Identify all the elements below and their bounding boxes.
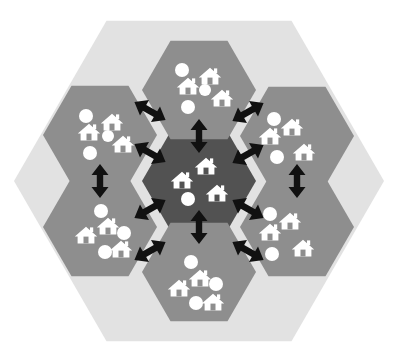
- hexagon-network-diagram: [0, 0, 399, 363]
- person-dot-icon: [94, 204, 108, 218]
- house-door: [121, 146, 126, 153]
- house-door: [211, 304, 216, 311]
- house-door: [119, 251, 124, 258]
- house-door: [177, 290, 182, 297]
- person-dot-icon: [79, 109, 93, 123]
- person-dot-icon: [265, 247, 279, 261]
- house-door: [87, 134, 92, 141]
- person-dot-icon: [263, 207, 277, 221]
- house-door: [288, 223, 293, 230]
- person-dot-icon: [267, 112, 281, 126]
- diagram-canvas: [0, 0, 399, 363]
- house-door: [208, 78, 213, 85]
- house-door: [301, 250, 306, 257]
- person-dot-icon: [117, 226, 131, 240]
- house-door: [84, 237, 89, 244]
- house-door: [268, 234, 273, 241]
- person-dot-icon: [199, 84, 211, 96]
- house-door: [186, 88, 191, 95]
- house-door: [302, 154, 307, 161]
- house-door: [180, 182, 185, 189]
- person-dot-icon: [209, 277, 223, 291]
- house-door: [204, 168, 209, 175]
- person-dot-icon: [175, 63, 189, 77]
- person-dot-icon: [181, 192, 195, 206]
- house-door: [215, 195, 220, 202]
- person-dot-icon: [184, 255, 198, 269]
- person-dot-icon: [181, 100, 195, 114]
- person-dot-icon: [189, 296, 203, 310]
- person-dot-icon: [270, 150, 284, 164]
- house-door: [290, 129, 295, 136]
- person-dot-icon: [98, 245, 112, 259]
- house-door: [220, 100, 225, 107]
- person-dot-icon: [102, 130, 114, 142]
- house-door: [106, 228, 111, 235]
- house-door: [198, 280, 203, 287]
- house-door: [268, 138, 273, 145]
- house-door: [110, 124, 115, 131]
- person-dot-icon: [83, 146, 97, 160]
